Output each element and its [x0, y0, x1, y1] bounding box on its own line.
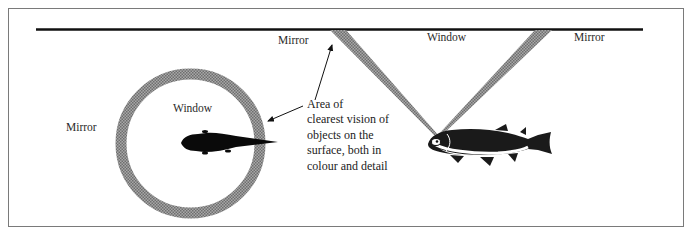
caption-line: clearest vision of — [307, 112, 389, 127]
label-mirror-right: Mirror — [574, 32, 605, 44]
label-window-top: Window — [427, 32, 466, 44]
label-mirror-left: Mirror — [66, 122, 97, 134]
caption-line: surface, both in — [307, 143, 389, 158]
arrow-to-ring — [268, 106, 303, 121]
label-window-ring: Window — [173, 103, 212, 115]
arrow-to-cone-band — [315, 45, 332, 100]
caption-line: objects on the — [307, 128, 389, 143]
annotation-caption: Area of clearest vision of objects on th… — [307, 97, 389, 174]
label-mirror-top: Mirror — [278, 35, 309, 47]
caption-line: Area of — [307, 97, 389, 112]
diagram-canvas: Mirror Window Mirror Window Mirror Area … — [0, 0, 694, 235]
cone-band-right — [437, 30, 552, 137]
caption-line: colour and detail — [307, 159, 389, 174]
